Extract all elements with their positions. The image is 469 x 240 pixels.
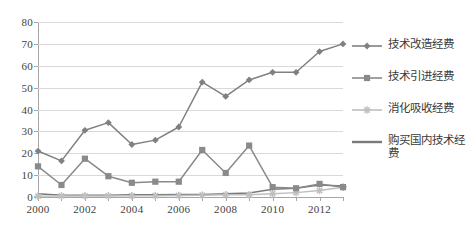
data-point [340, 40, 347, 47]
data-point [175, 192, 183, 200]
y-axis-label: 50 [21, 82, 33, 93]
legend-marker-icon [352, 39, 382, 53]
data-point [58, 192, 66, 200]
data-point [245, 191, 253, 199]
data-point [269, 190, 277, 198]
x-axis-label: 2004 [120, 204, 143, 215]
y-axis-label: 30 [21, 126, 33, 137]
legend-item-3[interactable]: 消化吸收经费 [352, 102, 469, 117]
legend-item-4[interactable]: 购买国内技术经费 [352, 134, 469, 160]
plot-area: 01020304050607080 2000200220042006200820… [38, 22, 343, 197]
data-point [222, 191, 230, 199]
data-point [340, 184, 346, 190]
legend-label: 购买国内技术经费 [388, 134, 469, 160]
legend-marker-icon [352, 71, 382, 85]
series-line [38, 44, 343, 161]
data-point [199, 147, 205, 153]
chart-legend: 技术改造经费技术引进经费消化吸收经费购买国内技术经费 [352, 38, 469, 177]
legend-item-1[interactable]: 技术改造经费 [352, 38, 469, 53]
x-axis-label: 2010 [261, 204, 284, 215]
series-square [35, 142, 346, 191]
data-point [152, 179, 158, 185]
line-chart: 01020304050607080 2000200220042006200820… [0, 0, 469, 240]
data-point [175, 124, 182, 131]
x-tick [320, 197, 321, 201]
x-axis-label: 2006 [167, 204, 190, 215]
x-axis-label: 2002 [73, 204, 96, 215]
data-point [199, 79, 206, 86]
y-axis-label: 80 [21, 17, 33, 28]
legend-marker-icon [352, 103, 382, 117]
series-diamond [35, 40, 347, 164]
data-point [152, 192, 160, 200]
data-point [246, 142, 252, 148]
legend-label: 消化吸收经费 [388, 102, 454, 115]
y-axis-label: 10 [21, 170, 33, 181]
x-tick [296, 197, 297, 201]
legend-marker-icon [352, 135, 382, 149]
y-axis-label: 0 [27, 192, 33, 203]
data-point [35, 163, 41, 169]
data-point [128, 192, 136, 200]
data-point [364, 43, 371, 50]
series-layer [38, 22, 343, 197]
data-point [363, 106, 371, 114]
x-axis-label: 2012 [308, 204, 331, 215]
series-line [38, 146, 343, 189]
data-point [129, 180, 135, 186]
data-point [105, 192, 113, 200]
data-point [316, 187, 324, 195]
legend-label: 技术改造经费 [388, 38, 454, 51]
data-point [270, 184, 276, 190]
data-point [105, 173, 111, 179]
data-point [82, 156, 88, 162]
data-point [198, 191, 206, 199]
x-tick [273, 197, 274, 201]
x-axis-label: 2000 [26, 204, 49, 215]
data-point [176, 179, 182, 185]
data-point [152, 137, 159, 144]
data-point [364, 75, 370, 81]
y-axis-label: 70 [21, 38, 33, 49]
x-tick [343, 197, 344, 201]
data-point [34, 192, 42, 200]
y-axis-label: 40 [21, 104, 33, 115]
data-point [81, 192, 89, 200]
legend-item-2[interactable]: 技术引进经费 [352, 70, 469, 85]
data-point [223, 170, 229, 176]
data-point [316, 181, 322, 187]
legend-label: 技术引进经费 [388, 70, 454, 83]
data-point [269, 69, 276, 76]
data-point [293, 185, 299, 191]
data-point [58, 182, 64, 188]
y-axis-label: 60 [21, 60, 33, 71]
y-axis-label: 20 [21, 148, 33, 159]
x-axis-label: 2008 [214, 204, 237, 215]
